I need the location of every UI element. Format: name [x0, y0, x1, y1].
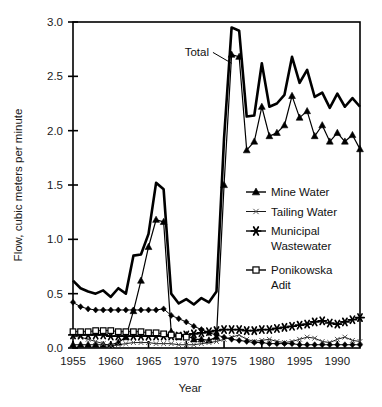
data-point-marker	[161, 331, 167, 337]
data-point-marker	[176, 333, 182, 339]
y-tick-label: 2.5	[47, 70, 63, 82]
y-tick-label: 3.0	[47, 16, 63, 28]
data-point-marker	[253, 267, 259, 273]
data-point-marker	[138, 329, 144, 335]
y-tick-label: 1.5	[47, 179, 63, 191]
data-point-marker	[183, 334, 189, 340]
x-tick-label: 1980	[249, 355, 275, 367]
y-tick-label: 2.0	[47, 125, 63, 137]
x-tick-label: 1960	[98, 355, 124, 367]
x-axis-title: Year	[178, 382, 201, 394]
legend-label: Mine Water	[271, 186, 330, 198]
figure-container: 0.00.51.01.52.02.53.0 195519601965197019…	[0, 0, 382, 407]
data-point-marker	[131, 329, 137, 335]
annotation-label: Total	[185, 46, 209, 58]
x-tick-label: 1965	[136, 355, 162, 367]
data-point-marker	[100, 328, 106, 334]
x-tick-label: 1955	[60, 355, 86, 367]
flow-line-chart: 0.00.51.01.52.02.53.0 195519601965197019…	[0, 0, 382, 407]
x-tick-label: 1995	[287, 355, 313, 367]
data-point-marker	[85, 329, 91, 335]
y-tick-label: 0.5	[47, 288, 63, 300]
data-point-marker	[116, 329, 122, 335]
data-point-marker	[93, 328, 99, 334]
data-point-marker	[153, 330, 159, 336]
data-point-marker	[168, 332, 174, 338]
data-point-marker	[108, 328, 114, 334]
legend-label: Tailing Water	[271, 206, 337, 218]
x-tick-label: 1990	[325, 355, 351, 367]
legend-label: Wastewater	[271, 240, 331, 252]
y-tick-label: 0.0	[47, 342, 63, 354]
legend-label: Ponikowska	[271, 264, 333, 276]
legend-label: Adit	[271, 279, 292, 291]
legend-label: Municipal	[271, 225, 320, 237]
data-point-marker	[146, 330, 152, 336]
y-tick-label: 1.0	[47, 233, 63, 245]
x-tick-label: 1970	[173, 355, 199, 367]
data-point-marker	[123, 329, 129, 335]
data-point-marker	[78, 329, 84, 335]
y-axis-title: Flow, cubic meters per minute	[12, 109, 24, 262]
x-tick-label: 1975	[211, 355, 237, 367]
data-point-marker	[70, 329, 76, 335]
